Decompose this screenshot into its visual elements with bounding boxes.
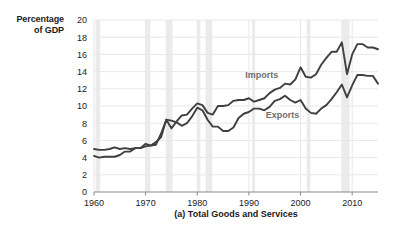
y-axis-tick-labels: 02468101214161820 [77, 15, 87, 197]
series-line-exports [94, 75, 378, 150]
y-tick-label: 18 [77, 33, 87, 43]
series-label-exports: Exports [266, 110, 300, 120]
line-chart-plot: 02468101214161820 1960197019801990200020… [0, 0, 404, 231]
y-tick-label: 16 [77, 50, 87, 60]
chart-figure: Percentage of GDP 02468101214161820 1960… [0, 0, 404, 231]
x-axis-tick-labels: 196019701980199020002010 [84, 198, 362, 208]
x-tick-label: 2000 [291, 198, 311, 208]
series-label-imports: Imports [245, 70, 278, 80]
y-tick-label: 14 [77, 67, 87, 77]
x-tick-label: 1970 [136, 198, 156, 208]
y-tick-label: 4 [82, 153, 87, 163]
x-tick-label: 1960 [84, 198, 104, 208]
x-tick-label: 2010 [342, 198, 362, 208]
y-tick-label: 12 [77, 84, 87, 94]
x-tick-label: 1990 [239, 198, 259, 208]
gridlines-group [94, 20, 378, 192]
x-tick-label: 1980 [187, 198, 207, 208]
y-tick-label: 2 [82, 170, 87, 180]
y-tick-label: 0 [82, 187, 87, 197]
y-tick-label: 8 [82, 119, 87, 129]
y-tick-label: 10 [77, 101, 87, 111]
y-tick-label: 20 [77, 15, 87, 25]
figure-caption: (a) Total Goods and Services [94, 209, 378, 219]
y-tick-label: 6 [82, 136, 87, 146]
